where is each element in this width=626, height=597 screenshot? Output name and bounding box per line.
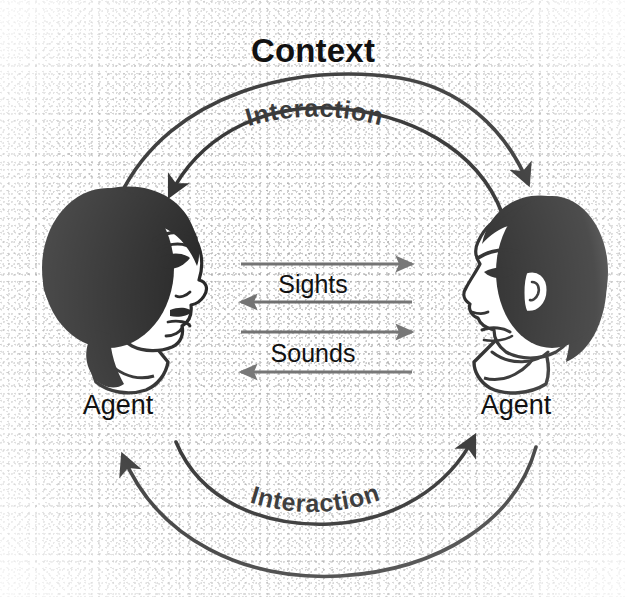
diagram-canvas: Interaction Interaction bbox=[0, 0, 626, 597]
face-profile-male-icon bbox=[464, 195, 608, 392]
sights-channel-label: Sights bbox=[233, 272, 393, 297]
page-title: Context bbox=[0, 34, 626, 67]
diagram-artwork: Interaction Interaction bbox=[0, 0, 626, 597]
interaction-loop-top: Interaction bbox=[120, 74, 528, 213]
interaction-label-bottom: Interaction bbox=[248, 478, 383, 517]
agent-left-label: Agent bbox=[44, 392, 192, 419]
interaction-arc-top-inner bbox=[170, 108, 502, 213]
sounds-channel-label: Sounds bbox=[233, 341, 393, 366]
interaction-loop-bottom: Interaction bbox=[123, 437, 536, 576]
interaction-label-top: Interaction bbox=[242, 93, 386, 131]
agent-right-label: Agent bbox=[442, 392, 590, 419]
face-profile-female-icon bbox=[42, 187, 206, 393]
